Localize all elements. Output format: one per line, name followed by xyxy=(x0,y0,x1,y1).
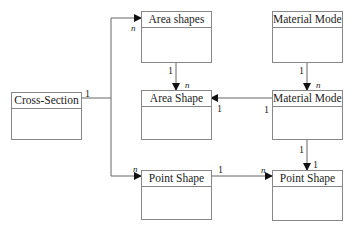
class-name: Point Shape xyxy=(142,171,211,187)
class-point-shape-right: Point Shape xyxy=(272,170,343,221)
multiplicity-point-left-n: n xyxy=(133,164,138,174)
class-area-shape: Area Shape xyxy=(141,90,212,140)
multiplicity-material-model-bottom-1: 1 xyxy=(299,145,304,155)
class-name: Area Shape xyxy=(142,91,211,107)
multiplicity-point-left-1: 1 xyxy=(218,165,223,175)
multiplicity-area-shapes-n: n xyxy=(131,23,136,33)
class-material-model: Material Model xyxy=(272,90,343,140)
multiplicity-cross-section: 1 xyxy=(85,89,90,99)
multiplicity-area-shape-1: 1 xyxy=(217,104,222,114)
multiplicity-point-right-1: 1 xyxy=(313,160,318,170)
class-area-shapes: Area shapes xyxy=(141,11,212,63)
multiplicity-area-shape-n: n xyxy=(185,80,190,90)
class-name: Material Model xyxy=(273,91,342,107)
class-point-shape-left: Point Shape xyxy=(141,170,212,220)
class-name: Point Shape xyxy=(273,171,342,187)
multiplicity-material-model-left-1: 1 xyxy=(264,105,269,115)
class-name: Area shapes xyxy=(142,12,211,28)
class-material-models: Material Models xyxy=(272,11,343,63)
multiplicity-material-model-n: n xyxy=(316,80,321,90)
class-name: Cross-Section xyxy=(12,93,81,109)
class-name: Material Models xyxy=(273,12,342,28)
multiplicity-area-shapes-1: 1 xyxy=(168,66,173,76)
multiplicity-material-models-1: 1 xyxy=(299,66,304,76)
multiplicity-point-right-n: n xyxy=(261,165,266,175)
class-cross-section: Cross-Section xyxy=(11,92,82,140)
